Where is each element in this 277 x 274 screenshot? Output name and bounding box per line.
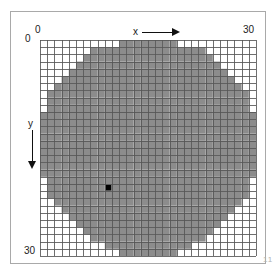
arrow-right-shaft-icon	[142, 32, 174, 33]
x-axis-max-label: 30	[243, 25, 254, 35]
arrow-down-shaft-icon	[32, 130, 33, 162]
x-axis-label: x	[133, 27, 138, 37]
arrow-right-icon	[172, 28, 180, 36]
figure-root: 0 30 0 30 x y 11	[0, 0, 277, 274]
x-axis-origin-label: 0	[35, 25, 41, 35]
pixel-grid	[40, 40, 257, 257]
y-axis-label: y	[28, 119, 33, 129]
x-axis-direction-arrow: x	[133, 28, 183, 37]
y-axis-origin-label: 0	[25, 34, 31, 44]
cropped-header-text	[243, 0, 273, 6]
y-axis-direction-arrow: y	[27, 119, 37, 171]
page-number: 11	[263, 256, 273, 264]
y-axis-max-label: 30	[24, 246, 35, 256]
arrow-down-icon	[28, 161, 36, 169]
pixel-grid-canvas	[40, 40, 257, 257]
